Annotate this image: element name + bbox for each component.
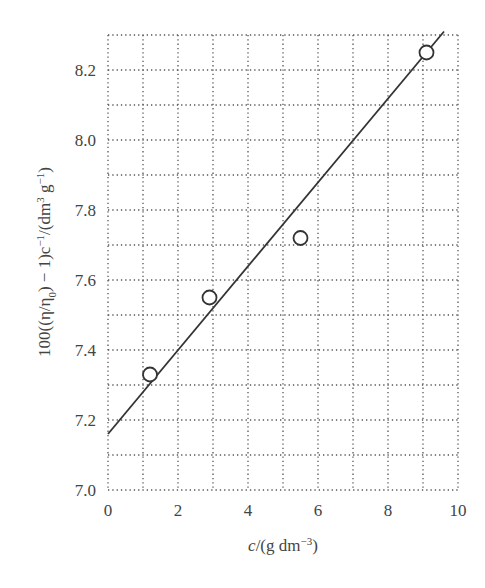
x-tick-label: 4: [244, 501, 253, 520]
x-axis-label: c/(g dm−3): [248, 535, 318, 555]
y-tick-label: 7.6: [75, 271, 96, 290]
x-tick-label: 0: [104, 501, 113, 520]
y-tick-label: 7.4: [75, 341, 97, 360]
y-tick-label: 7.8: [75, 201, 96, 220]
x-tick-labels: 0246810: [104, 501, 467, 520]
x-tick-label: 10: [450, 501, 467, 520]
y-tick-label: 8.2: [75, 61, 96, 80]
y-tick-labels: 7.07.27.47.67.88.08.2: [75, 61, 97, 500]
data-point-circle-icon: [420, 46, 434, 60]
y-axis-label: 100((η/η0) − 1)c−1/(dm3 g−1): [34, 167, 58, 357]
x-tick-label: 2: [174, 501, 183, 520]
data-point-circle-icon: [203, 291, 217, 305]
grid: [108, 35, 458, 490]
x-tick-label: 6: [314, 501, 323, 520]
regression-line: [108, 32, 444, 435]
y-tick-label: 7.0: [75, 481, 96, 500]
chart: 0246810 7.07.27.47.67.88.08.2 c/(g dm−3)…: [0, 0, 485, 588]
data-point-circle-icon: [143, 368, 157, 382]
fit-line: [108, 32, 444, 435]
y-tick-label: 8.0: [75, 131, 96, 150]
x-tick-label: 8: [384, 501, 393, 520]
data-point-circle-icon: [294, 231, 308, 245]
y-tick-label: 7.2: [75, 411, 96, 430]
